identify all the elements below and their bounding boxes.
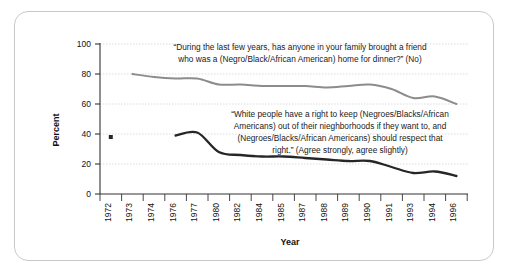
x-tick-label-1991: 1991 (384, 203, 394, 222)
x-tick-label-1990: 1990 (362, 203, 372, 222)
x-tick-label-1984: 1984 (254, 203, 264, 222)
annotation-line: (Negroes/Blacks/African Americans) shoul… (237, 133, 443, 143)
y-tick-label: 60 (82, 99, 92, 109)
x-tick-label-1994: 1994 (427, 203, 437, 222)
x-tick-label-1987: 1987 (297, 203, 307, 222)
dinner-question-annotation: “During the last few years, has anyone i… (173, 42, 427, 64)
x-axis-title: Year (280, 237, 300, 247)
y-tick-marks (95, 44, 100, 194)
y-tick-label: 80 (82, 69, 92, 79)
x-tick-label-1993: 1993 (405, 203, 415, 222)
x-tick-labels: 1972 1973 1974 1976 1977 1980 1982 1984 … (103, 203, 459, 222)
x-tick-marks (100, 194, 467, 201)
annotation-line: Americans) out of their nieghborhoods if… (234, 121, 447, 131)
series-isolated-marker-1972 (109, 135, 113, 139)
annotation-line: “White people have a right to keep (Negr… (231, 109, 449, 119)
y-tick-label: 100 (77, 39, 91, 49)
y-tick-label: 40 (82, 129, 92, 139)
x-tick-label-1996: 1996 (448, 203, 458, 222)
neighborhood-question-annotation: “White people have a right to keep (Negr… (231, 109, 449, 155)
x-tick-label-1976: 1976 (168, 203, 178, 222)
x-tick-label-1988: 1988 (319, 203, 329, 222)
annotation-line: who was a (Negro/Black/African American)… (177, 54, 422, 64)
x-tick-label-1989: 1989 (340, 203, 350, 222)
y-tick-label: 20 (82, 159, 92, 169)
y-tick-label: 0 (86, 189, 91, 199)
x-tick-label-1985: 1985 (276, 203, 286, 222)
series-line-dinner-question (132, 74, 456, 104)
y-tick-labels: 100 80 60 40 20 0 (77, 39, 91, 199)
chart-plot-area: 100 80 60 40 20 0 Percent (0, 0, 521, 277)
x-tick-label-1973: 1973 (124, 203, 134, 222)
y-axis-title: Percent (51, 113, 61, 146)
annotation-line: “During the last few years, has anyone i… (173, 42, 427, 52)
x-tick-label-1980: 1980 (211, 203, 221, 222)
line-chart: 100 80 60 40 20 0 Percent (0, 0, 521, 277)
x-tick-label-1974: 1974 (146, 203, 156, 222)
annotation-line: right.” (Agree strongly, agree slightly) (272, 145, 408, 155)
x-tick-label-1972: 1972 (103, 203, 113, 222)
x-tick-label-1977: 1977 (189, 203, 199, 222)
x-tick-label-1982: 1982 (232, 203, 242, 222)
